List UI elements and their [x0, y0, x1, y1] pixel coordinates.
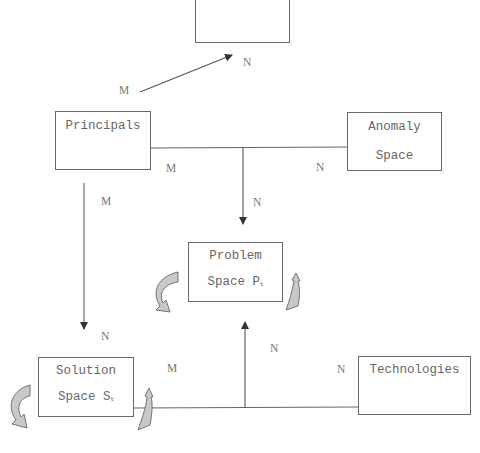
- solution-space-box: Solution Space St: [38, 357, 134, 417]
- top-entity-box: [195, 0, 290, 43]
- cardinality-label: N: [337, 363, 345, 375]
- technologies-label: Technologies: [359, 363, 470, 377]
- solution-label-line2: Space St: [39, 390, 133, 404]
- technologies-box: Technologies: [358, 356, 471, 415]
- cardinality-label: M: [166, 162, 176, 174]
- cardinality-label: N: [243, 56, 251, 68]
- problem-label-line2: Space Pt: [189, 275, 282, 289]
- anomaly-label-line2: Space: [348, 149, 441, 163]
- self-loop-arrow-icon: [156, 272, 178, 312]
- anomaly-label-line1: Anomaly: [348, 120, 441, 134]
- cardinality-label: M: [119, 84, 129, 96]
- problem-label-subscript: t: [260, 281, 264, 288]
- problem-label-line1: Problem: [189, 249, 282, 263]
- problem-space-box: Problem Space Pt: [188, 242, 283, 302]
- problem-label-main: Space P: [207, 275, 260, 289]
- cardinality-label: N: [270, 342, 278, 354]
- solution-label-line1: Solution: [39, 364, 133, 378]
- cardinality-label: M: [167, 362, 177, 374]
- cardinality-label: N: [316, 161, 324, 173]
- cardinality-label: N: [253, 196, 261, 208]
- anomaly-space-box: Anomaly Space: [347, 112, 442, 171]
- solution-label-subscript: t: [110, 396, 114, 403]
- principals-box: Principals: [55, 111, 151, 170]
- cardinality-label: M: [101, 195, 111, 207]
- solution-label-main: Space S: [58, 390, 111, 404]
- self-loop-arrow-icon: [138, 388, 153, 430]
- self-loop-arrow-icon: [286, 273, 300, 310]
- self-loop-arrow-icon: [11, 385, 30, 428]
- principals-label: Principals: [56, 119, 150, 133]
- cardinality-label: N: [101, 330, 109, 342]
